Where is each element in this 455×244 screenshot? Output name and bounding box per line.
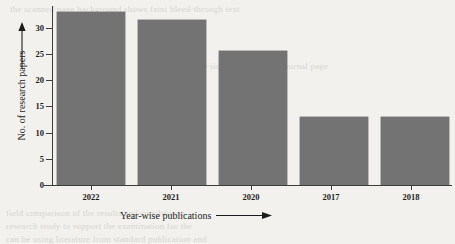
y-tick-label-15: 15 [24,102,44,110]
bar-slot [300,6,368,185]
x-axis-right-arrow-icon [216,211,272,220]
y-tick-25 [46,54,53,55]
x-tick-2020 [251,186,252,190]
y-tick-label-25: 25 [24,50,44,58]
plot-area [53,6,453,185]
bar-slot [138,6,206,185]
y-tick-label-5: 5 [24,155,44,163]
y-tick-30 [46,28,53,29]
y-tick-label-10: 10 [24,129,44,137]
x-tick-label-2021: 2021 [136,192,206,202]
bar-slot [57,6,125,185]
x-tick-2022 [91,186,92,190]
y-tick-5 [46,159,53,160]
y-tick-label-30: 30 [24,24,44,32]
bar-2017[interactable] [300,117,368,185]
x-tick-label-2017: 2017 [296,192,366,202]
bar-series [53,6,453,185]
x-tick-2017 [331,186,332,190]
y-tick-label-0: 0 [24,181,44,189]
y-tick-label-20: 20 [24,76,44,84]
x-tick-2021 [171,186,172,190]
bar-2022[interactable] [57,12,125,185]
bar-slot [381,6,449,185]
y-tick-20 [46,80,53,81]
x-axis-title: Year-wise publications [120,210,211,221]
bar-slot [219,6,287,185]
x-tick-label-2022: 2022 [56,192,126,202]
x-axis-title-group: Year-wise publications [120,210,272,221]
x-axis-line [44,185,452,186]
x-tick-label-2018: 2018 [376,192,446,202]
y-tick-10 [46,133,53,134]
y-tick-0 [46,185,53,186]
bar-chart-figure: No. of research papers 0 5 10 15 20 25 3… [0,0,455,244]
bar-2018[interactable] [381,117,449,185]
bar-2020[interactable] [219,51,287,185]
y-tick-15 [46,106,53,107]
x-tick-2018 [411,186,412,190]
x-tick-label-2020: 2020 [216,192,286,202]
bar-2021[interactable] [138,20,206,185]
